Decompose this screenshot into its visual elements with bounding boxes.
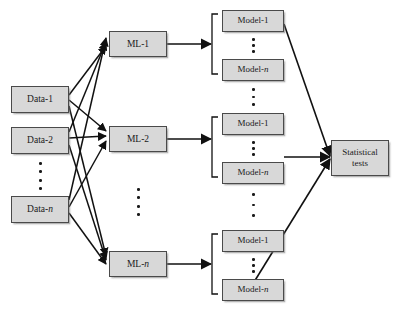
node-model-gn-last[interactable]: Model-n (222, 279, 284, 301)
node-label: Data-2 (27, 135, 53, 145)
node-model-gn-first[interactable]: Model-1 (222, 230, 284, 252)
diagram-canvas: Data-1 Data-2 Data-n ML-1 ML-2 ML-n Mode… (0, 0, 401, 316)
node-data-1[interactable]: Data-1 (11, 86, 69, 113)
between-group-2-n-ellipsis-icon (251, 193, 256, 217)
node-label: Model-n (238, 285, 269, 295)
node-label: ML-1 (127, 39, 149, 49)
model-group-2-ellipsis-icon (251, 141, 256, 156)
node-model-g1-first[interactable]: Model-1 (222, 10, 284, 32)
ml-ellipsis-icon (136, 188, 141, 216)
node-label: ML-2 (127, 134, 149, 144)
node-ml-1[interactable]: ML-1 (109, 31, 167, 57)
node-data-n[interactable]: Data-n (11, 196, 69, 223)
node-label: Model-1 (238, 236, 269, 246)
node-label: ML-n (127, 259, 149, 269)
node-label: Model-n (238, 168, 269, 178)
node-label: Data-n (27, 204, 53, 214)
model-group-1-ellipsis-icon (251, 38, 256, 53)
edges-ml-to-models (167, 44, 211, 264)
node-label: Model-1 (238, 16, 269, 26)
node-ml-n[interactable]: ML-n (109, 251, 167, 277)
node-label: Model-1 (238, 119, 269, 129)
data-ellipsis-icon (38, 162, 43, 190)
stats-label-line2: tests (352, 158, 368, 169)
model-group-n-ellipsis-icon (251, 258, 256, 273)
node-ml-2[interactable]: ML-2 (109, 126, 167, 152)
node-data-2[interactable]: Data-2 (11, 127, 69, 154)
stats-label-line1: Statistical (342, 147, 378, 158)
node-model-g2-first[interactable]: Model-1 (222, 113, 284, 135)
between-group-1-2-ellipsis-icon (251, 88, 256, 106)
node-model-g2-last[interactable]: Model-n (222, 162, 284, 184)
edges-data-to-ml (69, 38, 106, 264)
node-model-g1-last[interactable]: Model-n (222, 59, 284, 81)
node-label: Model-n (238, 65, 269, 75)
node-statistical-tests[interactable]: Statistical tests (331, 140, 389, 176)
model-group-brackets (212, 14, 218, 294)
node-label: Data-1 (27, 94, 53, 104)
